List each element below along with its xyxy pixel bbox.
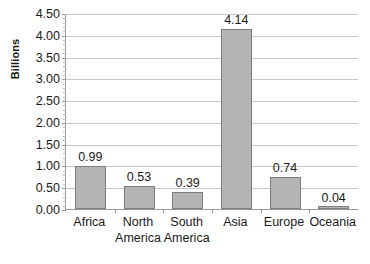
y-axis-minor-tick xyxy=(63,127,66,128)
x-axis-tick xyxy=(163,209,164,213)
x-axis-tick xyxy=(261,209,262,213)
y-axis-minor-tick xyxy=(63,119,66,120)
y-axis-minor-tick xyxy=(63,171,66,172)
y-axis-minor-tick xyxy=(63,75,66,76)
y-axis-minor-tick xyxy=(63,136,66,137)
x-axis-label: Oceania xyxy=(308,214,357,230)
bar-value-label: 4.14 xyxy=(211,14,261,27)
y-axis-minor-tick xyxy=(63,31,66,32)
x-axis-label: South America xyxy=(162,214,211,246)
gridline xyxy=(66,101,358,102)
y-axis-minor-tick xyxy=(63,149,66,150)
y-axis-minor-tick xyxy=(63,88,66,89)
x-axis-tick xyxy=(309,209,310,213)
y-axis-minor-tick xyxy=(63,66,66,67)
y-axis-minor-tick xyxy=(63,180,66,181)
bar-value-label: 0.04 xyxy=(309,192,359,205)
y-axis-minor-tick xyxy=(63,53,66,54)
bar xyxy=(270,177,301,209)
y-axis-tick xyxy=(62,101,66,102)
y-axis-tick-label: 4.00 xyxy=(22,30,60,43)
x-axis-tick xyxy=(115,209,116,213)
y-axis-minor-tick xyxy=(63,132,66,133)
bar xyxy=(75,166,106,209)
y-axis-minor-tick xyxy=(63,193,66,194)
x-axis-tick xyxy=(212,209,213,213)
y-axis-minor-tick xyxy=(63,201,66,202)
bar xyxy=(172,192,203,209)
y-axis-minor-tick xyxy=(63,71,66,72)
x-axis-category-labels: AfricaNorth AmericaSouth AmericaAsiaEuro… xyxy=(65,214,357,260)
bar-value-label: 0.53 xyxy=(114,171,164,184)
y-axis-tick-label: 0.50 xyxy=(22,182,60,195)
y-axis-tick xyxy=(62,58,66,59)
gridline xyxy=(66,145,358,146)
y-axis-minor-tick xyxy=(63,23,66,24)
x-axis-label: North America xyxy=(114,214,163,246)
y-axis-minor-tick xyxy=(63,40,66,41)
y-axis-minor-tick xyxy=(63,140,66,141)
gridline xyxy=(66,166,358,167)
y-axis-minor-tick xyxy=(63,184,66,185)
y-axis-minor-tick xyxy=(63,18,66,19)
y-axis-tick-label: 3.50 xyxy=(22,51,60,64)
y-axis-tick-label: 2.50 xyxy=(22,95,60,108)
y-axis-minor-tick xyxy=(63,206,66,207)
x-axis-label: Europe xyxy=(260,214,309,230)
y-axis-tick xyxy=(62,188,66,189)
y-axis-minor-tick xyxy=(63,62,66,63)
y-axis-tick-label: 1.00 xyxy=(22,160,60,173)
gridline xyxy=(66,58,358,59)
y-axis-minor-tick xyxy=(63,197,66,198)
y-axis-minor-tick xyxy=(63,175,66,176)
y-axis-minor-tick xyxy=(63,114,66,115)
bar-value-label: 0.74 xyxy=(260,162,310,175)
y-axis-tick-label: 0.00 xyxy=(22,204,60,217)
gridline xyxy=(66,79,358,80)
y-axis-tick xyxy=(62,210,66,211)
y-axis-tick xyxy=(62,36,66,37)
y-axis-minor-tick xyxy=(63,27,66,28)
y-axis-minor-tick xyxy=(63,110,66,111)
x-axis-label: Africa xyxy=(65,214,114,230)
y-axis-tick-label: 4.50 xyxy=(22,8,60,21)
y-axis-tick-labels: 0.000.501.001.502.002.503.003.504.004.50 xyxy=(22,14,60,210)
bar-value-label: 0.39 xyxy=(163,177,213,190)
y-axis-minor-tick xyxy=(63,84,66,85)
y-axis-tick xyxy=(62,145,66,146)
bar xyxy=(318,206,349,209)
y-axis-minor-tick xyxy=(63,49,66,50)
y-axis-tick xyxy=(62,123,66,124)
bar-chart: Billions 0.000.501.001.502.002.503.003.5… xyxy=(0,0,370,264)
y-axis-tick xyxy=(62,166,66,167)
plot-area: 0.990.530.394.140.740.04 xyxy=(65,14,357,210)
y-axis-tick xyxy=(62,14,66,15)
bar xyxy=(221,29,252,209)
bar xyxy=(124,186,155,209)
y-axis-tick xyxy=(62,79,66,80)
y-axis-minor-tick xyxy=(63,92,66,93)
x-axis-label: Asia xyxy=(211,214,260,230)
y-axis-tick-label: 3.00 xyxy=(22,73,60,86)
y-axis-tick-label: 1.50 xyxy=(22,138,60,151)
y-axis-tick-label: 2.00 xyxy=(22,117,60,130)
y-axis-minor-tick xyxy=(63,105,66,106)
gridline xyxy=(66,123,358,124)
bar-value-label: 0.99 xyxy=(65,151,115,164)
gridline xyxy=(66,36,358,37)
y-axis-title-text: Billions xyxy=(9,39,21,80)
y-axis-minor-tick xyxy=(63,44,66,45)
y-axis-minor-tick xyxy=(63,97,66,98)
